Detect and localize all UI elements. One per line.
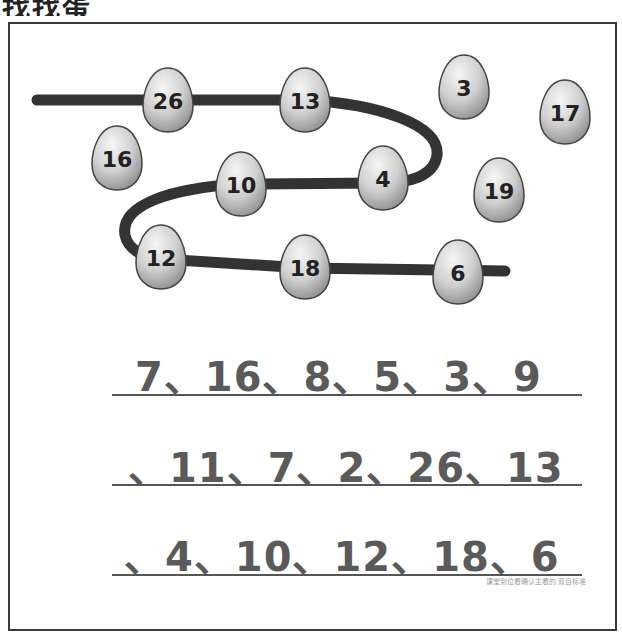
svg-text:13: 13 (290, 89, 321, 114)
svg-text:6: 6 (450, 261, 465, 286)
svg-text:18: 18 (290, 256, 321, 281)
egg-17: 17 (540, 80, 590, 144)
credit-text: 课堂到位看确认主看的 双目标准 (486, 576, 586, 586)
svg-text:17: 17 (550, 101, 581, 126)
answer-underline-1 (112, 394, 582, 396)
svg-text:4: 4 (375, 167, 390, 192)
svg-text:16: 16 (102, 147, 133, 172)
svg-text:3: 3 (456, 76, 471, 101)
egg-4: 4 (358, 146, 408, 210)
egg-3: 3 (439, 55, 489, 119)
egg-6: 6 (433, 240, 483, 304)
egg-19: 19 (474, 158, 524, 222)
egg-26: 26 (143, 68, 193, 132)
svg-text:19: 19 (484, 179, 515, 204)
egg-18: 18 (280, 235, 330, 299)
egg-16: 16 (92, 126, 142, 190)
svg-text:10: 10 (226, 173, 257, 198)
egg-13: 13 (280, 68, 330, 132)
egg-12: 12 (136, 225, 186, 289)
svg-text:12: 12 (146, 246, 177, 271)
answer-underline-2 (112, 484, 582, 486)
egg-10: 10 (216, 152, 266, 216)
svg-text:26: 26 (153, 89, 184, 114)
